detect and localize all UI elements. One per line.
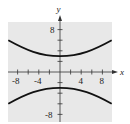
y-tick-label: -8 bbox=[45, 110, 53, 120]
y-axis-label: y bbox=[56, 4, 61, 14]
x-tick-label: -4 bbox=[34, 76, 42, 86]
hyperbola-chart: -8 -4 4 8 8 -8 x y bbox=[0, 0, 130, 124]
x-tick-label: -8 bbox=[12, 76, 20, 86]
x-tick-label: 4 bbox=[79, 76, 84, 86]
x-tick-label: 8 bbox=[100, 76, 105, 86]
x-axis-arrow-icon bbox=[112, 70, 118, 74]
x-axis-label: x bbox=[119, 67, 124, 77]
y-tick-label: 8 bbox=[50, 25, 55, 35]
y-axis-arrow-icon bbox=[58, 15, 62, 21]
